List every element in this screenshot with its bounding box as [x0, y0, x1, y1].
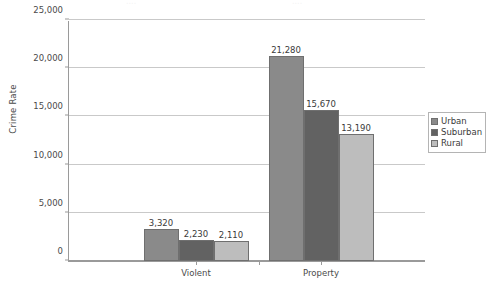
y-axis-tick-label: 5,000	[39, 198, 63, 208]
legend-swatch-icon	[431, 118, 438, 125]
bar-value-label: 2,230	[184, 229, 208, 239]
legend-item-rural[interactable]: Rural	[431, 138, 482, 149]
x-axis-category-label: Property	[303, 268, 339, 278]
bar-group-violent: 3,3202,2302,110Violent	[144, 21, 249, 261]
bar-violent-suburban[interactable]: 2,230	[179, 240, 214, 261]
legend-item-label: Suburban	[441, 127, 482, 138]
bar-chart-figure: .... .... Crime Rate 05,00010,00015,0002…	[0, 0, 497, 286]
bar-value-label: 3,320	[149, 218, 173, 228]
y-axis-tick-mark	[65, 211, 69, 212]
x-axis-tick-mark-midpoint	[259, 261, 260, 265]
y-axis-tick-label: 10,000	[33, 150, 63, 160]
bar-value-label: 13,190	[341, 123, 371, 133]
bar-property-urban[interactable]: 21,280	[269, 56, 304, 261]
top-edge-artifact: .... ....	[0, 0, 497, 8]
plot-area: 05,00010,00015,00020,00025,000 3,3202,23…	[68, 21, 425, 262]
legend-item-label: Rural	[441, 138, 463, 149]
bar-property-rural[interactable]: 13,190	[339, 134, 374, 261]
top-artifact-fragment-right: ....	[292, 0, 302, 6]
y-axis-tick-label: 0	[58, 246, 63, 256]
bar-property-suburban[interactable]: 15,670	[304, 110, 339, 261]
chart-legend: UrbanSuburbanRural	[428, 112, 486, 153]
y-axis-tick-mark	[65, 67, 69, 68]
bar-violent-urban[interactable]: 3,320	[144, 229, 179, 261]
legend-item-label: Urban	[441, 116, 467, 127]
bar-value-label: 2,110	[219, 230, 243, 240]
legend-swatch-icon	[431, 140, 438, 147]
y-axis-title: Crime Rate	[8, 74, 18, 144]
gridline: 25,000	[69, 19, 425, 20]
x-axis-tick-mark	[196, 261, 197, 265]
y-axis-tick-label: 20,000	[33, 53, 63, 63]
legend-item-suburban[interactable]: Suburban	[431, 127, 482, 138]
legend-item-urban[interactable]: Urban	[431, 116, 482, 127]
bar-value-label: 21,280	[271, 45, 301, 55]
y-axis-tick-mark	[65, 260, 69, 261]
bar-group-property: 21,28015,67013,190Property	[269, 21, 374, 261]
y-axis-tick-mark	[65, 19, 69, 20]
y-axis-tick-label: 25,000	[33, 5, 63, 15]
legend-swatch-icon	[431, 129, 438, 136]
bar-violent-rural[interactable]: 2,110	[214, 241, 249, 261]
y-axis-tick-mark	[65, 163, 69, 164]
y-axis-tick-label: 15,000	[33, 101, 63, 111]
y-axis-tick-mark	[65, 115, 69, 116]
x-axis-category-label: Violent	[181, 268, 211, 278]
top-artifact-fragment-left: ....	[126, 0, 136, 6]
bar-value-label: 15,670	[306, 99, 336, 109]
x-axis-tick-mark	[321, 261, 322, 265]
